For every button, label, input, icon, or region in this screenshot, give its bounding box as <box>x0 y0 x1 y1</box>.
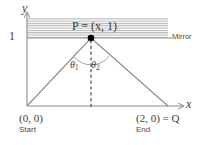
x-axis-label: x <box>186 98 191 110</box>
end-coordinate-label: (2, 0) = Q <box>136 113 179 124</box>
reflected-ray <box>91 38 168 106</box>
mirror-label: Mirror <box>172 33 192 41</box>
point-p-label: P = (x, 1) <box>72 20 117 32</box>
start-role-label: Start <box>19 126 36 134</box>
theta1-label: θ1 <box>70 60 79 72</box>
incident-ray <box>27 38 91 106</box>
y-axis-label: y <box>22 2 27 14</box>
theta2-subscript: 2 <box>96 64 100 72</box>
origin-coordinate-label: (0, 0) <box>19 113 43 124</box>
reflection-diagram: y x 1 P = (x, 1) Mirror θ1 θ2 (0, 0) Sta… <box>0 0 203 145</box>
theta2-label: θ2 <box>91 60 100 72</box>
end-role-label: End <box>136 126 150 134</box>
point-p-marker <box>88 35 95 42</box>
y-tick-label-1: 1 <box>9 30 15 42</box>
theta1-subscript: 1 <box>75 64 79 72</box>
